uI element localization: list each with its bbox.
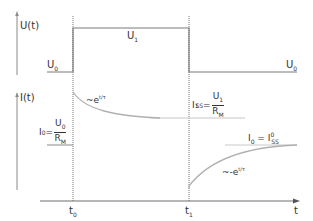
voltage-axis-label: U(t): [20, 21, 39, 31]
time-axis-arrow-icon: [293, 199, 300, 204]
u1-label: U1: [127, 31, 138, 43]
t1-label: t1: [185, 206, 193, 218]
current-axis-label: I(t): [20, 93, 35, 103]
steady-state-1-formula: I1SS= U1 RM: [192, 91, 224, 120]
t0-label: t0: [69, 206, 77, 218]
u0-right-label: U0: [286, 60, 297, 72]
rise-annotation: ~-et/τ: [222, 167, 245, 177]
decay-annotation: ~et/τ: [86, 95, 106, 105]
u0-left-label: U0: [47, 60, 58, 72]
initial-current-formula: I0= U0 RM: [39, 118, 66, 147]
voltage-waveform: [47, 28, 297, 72]
step-response-diagram: [0, 0, 313, 221]
steady-state-0-formula: I0 = I0SS: [248, 132, 279, 145]
time-axis-label: t: [294, 206, 298, 216]
voltage-axis-arrow-icon: [15, 11, 19, 16]
current-axis-arrow-icon: [15, 92, 19, 97]
